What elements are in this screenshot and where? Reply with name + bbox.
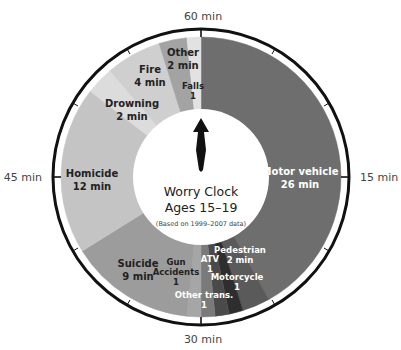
tick-label: 15 min [360, 171, 398, 184]
center-subtitle: Ages 15–19 [165, 200, 238, 215]
tick-label: 30 min [184, 333, 222, 346]
worry-clock-chart: Worry ClockAges 15–19(Based on 1999–2007… [0, 0, 401, 350]
tick-label: 45 min [4, 171, 42, 184]
tick-label: 60 min [184, 10, 222, 23]
center-title: Worry Clock [164, 184, 239, 199]
center-note: (Based on 1999–2007 data) [156, 220, 246, 228]
